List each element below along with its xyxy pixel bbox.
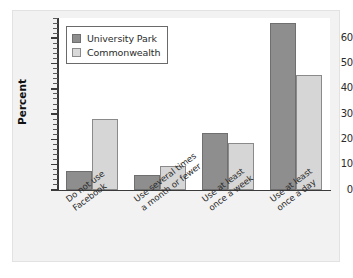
legend-item: Commonwealth (72, 45, 160, 59)
y-tick-minor (53, 154, 58, 155)
y-axis-title: Percent (16, 72, 28, 132)
y-tick-minor (53, 83, 58, 84)
bar-chart-figure: 0102030405060 Percent Do not use Faceboo… (0, 0, 353, 278)
y-tick-minor (53, 134, 58, 135)
chart-legend: University Park Commonwealth (66, 26, 168, 64)
y-tick-minor (53, 53, 58, 54)
y-tick-minor (53, 58, 58, 59)
y-tick-minor (53, 174, 58, 175)
y-tick-label: 60 (309, 32, 353, 43)
y-tick-minor (53, 144, 58, 145)
y-tick-minor (53, 129, 58, 130)
y-tick-minor (53, 119, 58, 120)
legend-label-commonwealth: Commonwealth (87, 47, 160, 58)
y-tick-minor (53, 184, 58, 185)
legend-swatch-university-park (72, 34, 81, 43)
y-tick-minor (53, 169, 58, 170)
legend-swatch-commonwealth (72, 48, 81, 57)
y-tick-minor (53, 124, 58, 125)
y-tick-major (51, 164, 58, 166)
y-tick-minor (53, 48, 58, 49)
y-tick-major (51, 37, 58, 39)
y-tick-minor (53, 98, 58, 99)
legend-label-university-park: University Park (87, 33, 157, 44)
y-tick-minor (53, 18, 58, 19)
y-tick-minor (53, 149, 58, 150)
y-tick-major (51, 63, 58, 65)
y-tick-minor (53, 159, 58, 160)
y-tick-minor (53, 78, 58, 79)
y-tick-major (51, 113, 58, 115)
y-tick-minor (53, 73, 58, 74)
y-tick-minor (53, 43, 58, 44)
y-tick-minor (53, 104, 58, 105)
y-tick-minor (53, 33, 58, 34)
y-tick-minor (53, 179, 58, 180)
y-tick-minor (53, 109, 58, 110)
y-tick-minor (53, 28, 58, 29)
y-tick-minor (53, 68, 58, 69)
y-tick-label: 50 (309, 57, 353, 68)
y-tick-major (51, 88, 58, 90)
y-tick-minor (53, 93, 58, 94)
bar (270, 23, 296, 190)
y-tick-major (51, 189, 58, 191)
legend-item: University Park (72, 31, 160, 45)
y-tick-minor (53, 23, 58, 24)
y-tick-major (51, 139, 58, 141)
